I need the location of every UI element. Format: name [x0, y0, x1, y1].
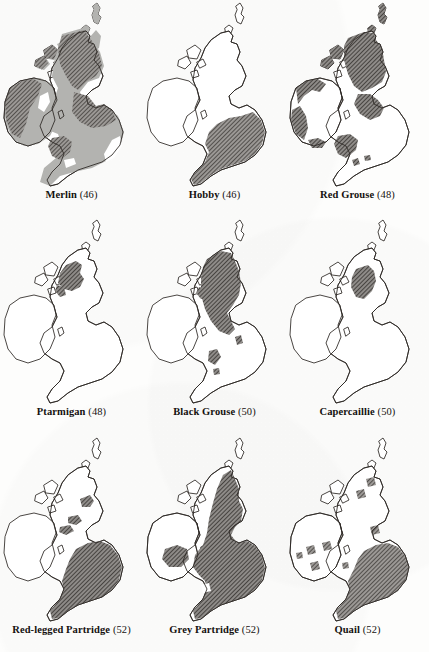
- map-red-legged-partridge: [0, 435, 143, 627]
- map-red-grouse: [286, 0, 429, 192]
- map-black-grouse: [143, 217, 286, 409]
- map-cell-quail: Quail (52): [286, 435, 429, 652]
- map-merlin: [0, 0, 143, 192]
- map-ptarmigan: [0, 217, 143, 409]
- map-cell-merlin: Merlin (46): [0, 0, 143, 217]
- figure-page: Merlin (46): [0, 0, 429, 652]
- map-cell-red-legged-partridge: Red-legged Partridge (52): [0, 435, 143, 652]
- map-cell-black-grouse: Black Grouse (50): [143, 217, 286, 434]
- map-quail: [286, 435, 429, 627]
- map-cell-hobby: Hobby (46): [143, 0, 286, 217]
- map-cell-ptarmigan: Ptarmigan (48): [0, 217, 143, 434]
- map-capercaillie: [286, 217, 429, 409]
- map-grid: Merlin (46): [0, 0, 429, 652]
- map-cell-grey-partridge: Grey Partridge (52): [143, 435, 286, 652]
- map-hobby: [143, 0, 286, 192]
- map-cell-capercaillie: Capercaillie (50): [286, 217, 429, 434]
- map-cell-red-grouse: Red Grouse (48): [286, 0, 429, 217]
- map-grey-partridge: [143, 435, 286, 627]
